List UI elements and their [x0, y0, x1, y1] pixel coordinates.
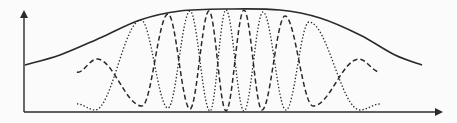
- envelope-curve: [25, 9, 422, 65]
- dotted-carrier-wave: [77, 10, 380, 111]
- diagram-canvas: [0, 0, 457, 123]
- dashed-carrier-wave: [77, 10, 380, 111]
- wave-packet-diagram: [0, 0, 457, 123]
